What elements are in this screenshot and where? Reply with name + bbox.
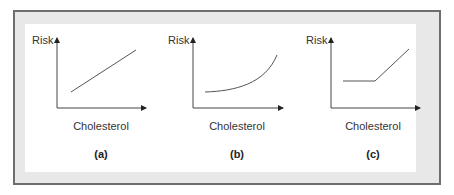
y-label-c: Risk	[306, 34, 327, 46]
x-label-c: Cholesterol	[345, 120, 401, 132]
linear-risk-line	[71, 50, 136, 92]
chart-b	[193, 38, 283, 108]
caption-b: (b)	[230, 148, 244, 160]
chart-c	[331, 38, 420, 108]
x-label-b: Cholesterol	[209, 120, 265, 132]
exponential-risk-curve	[205, 55, 277, 92]
x-label-a: Cholesterol	[73, 120, 129, 132]
y-label-a: Risk	[32, 34, 53, 46]
caption-c: (c)	[366, 148, 379, 160]
charts-svg	[0, 0, 454, 195]
y-label-b: Risk	[168, 34, 189, 46]
caption-a: (a)	[94, 148, 107, 160]
threshold-risk-line	[343, 49, 409, 81]
chart-a	[57, 38, 146, 108]
